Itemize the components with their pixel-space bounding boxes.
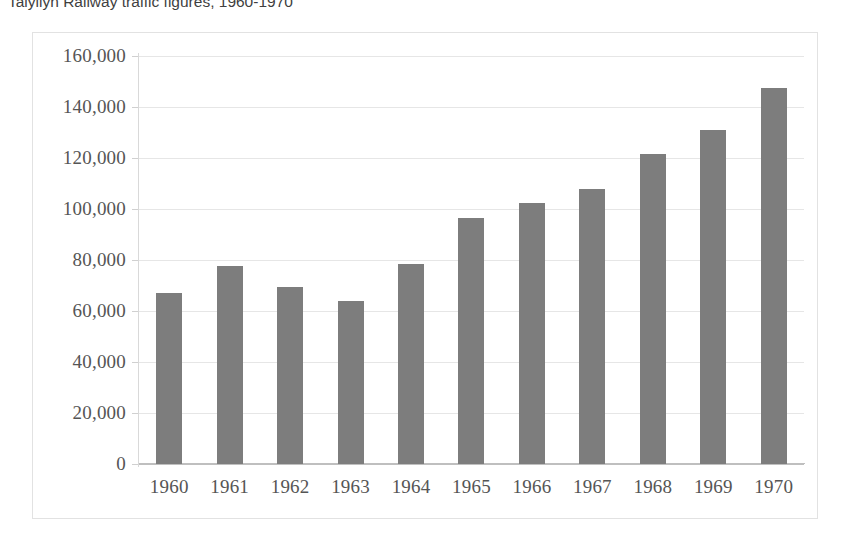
x-axis-label-1967: 1967: [573, 476, 612, 498]
y-axis-tick: [132, 158, 138, 159]
y-axis-tick: [132, 362, 138, 363]
chart-title-region: Talyllyn Railway traffic figures, 1960-1…: [0, 0, 849, 13]
bar-group: 1965: [441, 56, 501, 464]
x-axis-label-1968: 1968: [633, 476, 672, 498]
bar-group: 1963: [320, 56, 380, 464]
y-axis-tick: [132, 260, 138, 261]
y-axis-label: 40,000: [73, 351, 126, 373]
y-axis-tick: [132, 209, 138, 210]
bar-1968[interactable]: [640, 154, 666, 464]
x-axis-label-1969: 1969: [694, 476, 733, 498]
y-axis-tick: [132, 464, 138, 465]
x-axis-label-1964: 1964: [392, 476, 431, 498]
y-axis-label: 60,000: [73, 300, 126, 322]
bar-1963[interactable]: [338, 301, 364, 464]
bar-group: 1962: [260, 56, 320, 464]
y-axis-tick: [132, 107, 138, 108]
bars-layer: 1960196119621963196419651966196719681969…: [139, 56, 804, 464]
y-axis-label: 0: [116, 453, 126, 475]
y-axis-label: 20,000: [73, 402, 126, 424]
bar-group: 1970: [744, 56, 804, 464]
bar-1965[interactable]: [458, 218, 484, 464]
bar-group: 1967: [562, 56, 622, 464]
x-axis-label-1963: 1963: [331, 476, 370, 498]
y-axis-label: 160,000: [63, 45, 126, 67]
page-title: Talyllyn Railway traffic figures, 1960-1…: [8, 0, 293, 13]
bar-1970[interactable]: [761, 88, 787, 464]
x-axis-label-1960: 1960: [150, 476, 189, 498]
x-axis-label-1966: 1966: [513, 476, 552, 498]
x-axis-label-1970: 1970: [754, 476, 793, 498]
y-axis-label: 120,000: [63, 147, 126, 169]
plot-area: 020,00040,00060,00080,000100,000120,0001…: [139, 56, 804, 464]
y-axis-label: 80,000: [73, 249, 126, 271]
bar-group: 1966: [502, 56, 562, 464]
y-axis-tick: [132, 413, 138, 414]
bar-1961[interactable]: [217, 266, 243, 464]
bar-1966[interactable]: [519, 203, 545, 464]
bar-group: 1968: [623, 56, 683, 464]
bar-group: 1961: [199, 56, 259, 464]
bar-1964[interactable]: [398, 264, 424, 464]
chart-frame: 020,00040,00060,00080,000100,000120,0001…: [32, 32, 818, 519]
y-axis-label: 140,000: [63, 96, 126, 118]
y-axis-tick: [132, 56, 138, 57]
bar-group: 1960: [139, 56, 199, 464]
x-axis-label-1961: 1961: [210, 476, 249, 498]
x-axis-label-1962: 1962: [271, 476, 310, 498]
bar-group: 1964: [381, 56, 441, 464]
bar-group: 1969: [683, 56, 743, 464]
bar-1967[interactable]: [579, 189, 605, 464]
y-axis-label: 100,000: [63, 198, 126, 220]
bar-1962[interactable]: [277, 287, 303, 464]
bar-1960[interactable]: [156, 293, 182, 464]
bar-1969[interactable]: [700, 130, 726, 464]
gridline: 0: [139, 464, 804, 465]
y-axis-tick: [132, 311, 138, 312]
x-axis-label-1965: 1965: [452, 476, 491, 498]
